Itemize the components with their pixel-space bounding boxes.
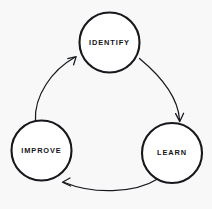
node-identify-label: IDENTIFY: [89, 38, 130, 47]
node-improve[interactable]: IMPROVE: [12, 121, 72, 181]
arrow-learn-to-improve: [62, 178, 158, 191]
node-learn-label: LEARN: [157, 148, 187, 157]
node-improve-label: IMPROVE: [21, 146, 61, 155]
arrow-identify-to-learn: [140, 59, 184, 122]
node-identify[interactable]: IDENTIFY: [80, 13, 140, 73]
arrow-improve-to-identify: [35, 57, 76, 121]
node-learn[interactable]: LEARN: [142, 123, 202, 183]
arrow-learn-to-improve-head-icon: [62, 178, 70, 186]
arrow-learn-to-improve-curve: [65, 179, 159, 191]
cycle-diagram-canvas: IDENTIFY LEARN IMPROVE: [0, 0, 212, 209]
arrow-improve-to-identify-curve: [35, 58, 74, 121]
arrow-identify-to-learn-curve: [140, 59, 180, 120]
improvement-cycle-diagram: IDENTIFY LEARN IMPROVE: [0, 0, 212, 209]
